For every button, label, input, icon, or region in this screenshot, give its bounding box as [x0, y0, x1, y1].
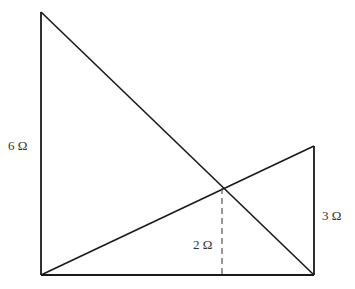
label-left-height: 6 Ω: [8, 139, 27, 152]
diagonal-left-top-to-right-bottom: [41, 12, 314, 275]
label-intersection-height: 2 Ω: [193, 238, 212, 251]
diagonal-left-bottom-to-right-top: [41, 146, 314, 275]
label-right-height: 3 Ω: [322, 209, 341, 222]
resistance-diagram: [0, 0, 355, 289]
